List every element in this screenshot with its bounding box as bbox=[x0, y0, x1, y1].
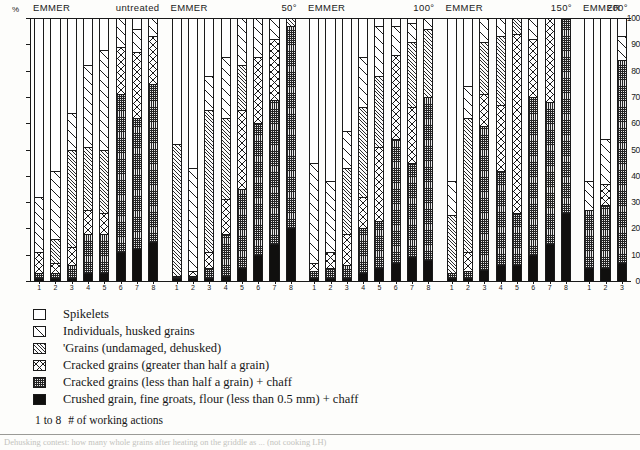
stacked-bar[interactable] bbox=[116, 18, 126, 281]
stacked-bar[interactable] bbox=[253, 18, 263, 281]
stacked-bar[interactable] bbox=[391, 18, 401, 281]
bar-segment-spikelets bbox=[51, 18, 59, 171]
x-tick-label: 1 bbox=[169, 284, 185, 291]
stacked-bar[interactable] bbox=[512, 18, 522, 281]
bar-segment-spikelets bbox=[343, 18, 351, 131]
bar-segment-crushed bbox=[100, 273, 108, 281]
legend-item[interactable]: Spikelets bbox=[33, 306, 593, 323]
stacked-bar[interactable] bbox=[188, 18, 198, 281]
bar-segment-spikelets bbox=[310, 18, 318, 163]
bar-group: EMMER150° bbox=[444, 18, 575, 281]
stacked-bar[interactable] bbox=[99, 18, 109, 281]
stacked-bar[interactable] bbox=[584, 18, 594, 281]
stacked-bar[interactable] bbox=[374, 18, 384, 281]
group-header: EMMER200° bbox=[581, 2, 630, 16]
group-name-label: EMMER bbox=[33, 2, 70, 13]
stacked-bar[interactable] bbox=[132, 18, 142, 281]
x-tick-mark bbox=[622, 281, 623, 284]
stacked-bar[interactable] bbox=[83, 18, 93, 281]
bar-segment-grains bbox=[497, 36, 505, 104]
stacked-bar[interactable] bbox=[407, 18, 417, 281]
legend-item[interactable]: 'Grains (undamaged, dehusked) bbox=[33, 340, 593, 357]
bar-segment-individual bbox=[310, 163, 318, 263]
stacked-bar[interactable] bbox=[600, 18, 610, 281]
bar-segment-grains bbox=[84, 147, 92, 210]
bar-segment-cracked-big bbox=[310, 263, 318, 271]
stacked-bar[interactable] bbox=[617, 18, 627, 281]
bar-segment-individual bbox=[408, 23, 416, 41]
stacked-bar[interactable] bbox=[309, 18, 319, 281]
stacked-bar[interactable] bbox=[463, 18, 473, 281]
stacked-bar[interactable] bbox=[325, 18, 335, 281]
x-tick-label: 3 bbox=[476, 284, 492, 291]
x-tick-label: 8 bbox=[558, 284, 574, 291]
stacked-bar[interactable] bbox=[50, 18, 60, 281]
stacked-bar[interactable] bbox=[479, 18, 489, 281]
x-tick-label: 3 bbox=[64, 284, 80, 291]
stacked-bar[interactable] bbox=[67, 18, 77, 281]
stacked-bar[interactable] bbox=[204, 18, 214, 281]
stacked-bar[interactable] bbox=[561, 18, 571, 281]
stacked-bar[interactable] bbox=[423, 18, 433, 281]
working-actions-text: # of working actions bbox=[68, 414, 163, 426]
bar-segment-individual bbox=[117, 18, 125, 47]
bar-segment-cracked-small bbox=[546, 102, 554, 244]
stacked-bar[interactable] bbox=[447, 18, 457, 281]
bar-segment-cracked-small bbox=[424, 97, 432, 260]
bar-segment-crushed bbox=[149, 242, 157, 281]
bar-segment-spikelets bbox=[326, 18, 334, 181]
x-tick-mark bbox=[88, 281, 89, 284]
bar-segment-cracked-big bbox=[464, 252, 472, 270]
x-tick-mark bbox=[242, 281, 243, 284]
stacked-bar[interactable] bbox=[237, 18, 247, 281]
bar-segment-grains bbox=[464, 118, 472, 252]
bar-segment-cracked-small bbox=[585, 210, 593, 268]
bar-segment-cracked-small bbox=[601, 205, 609, 268]
stacked-bar[interactable] bbox=[172, 18, 182, 281]
x-tick-label: 6 bbox=[388, 284, 404, 291]
x-tick-label: 3 bbox=[201, 284, 217, 291]
x-tick-label: 8 bbox=[283, 284, 299, 291]
bar-segment-cracked-big bbox=[326, 252, 334, 268]
legend-item[interactable]: Crushed grain, fine groats, flour (less … bbox=[33, 391, 593, 408]
legend-label: Individuals, husked grains bbox=[63, 324, 195, 339]
footer-divider bbox=[0, 434, 640, 435]
stacked-bar[interactable] bbox=[545, 18, 555, 281]
stacked-bar[interactable] bbox=[528, 18, 538, 281]
x-tick-label: 2 bbox=[185, 284, 201, 291]
bar-segment-cracked-small bbox=[343, 265, 351, 278]
bar-segment-individual bbox=[84, 65, 92, 147]
bar-segment-individual bbox=[149, 18, 157, 36]
stacked-bar[interactable] bbox=[286, 18, 296, 281]
bar-segment-individual bbox=[51, 171, 59, 239]
bar-segment-cracked-big bbox=[35, 252, 43, 273]
x-tick-mark bbox=[137, 281, 138, 284]
stacked-bar[interactable] bbox=[342, 18, 352, 281]
group-treatment-label: 100° bbox=[413, 2, 434, 13]
stacked-bar[interactable] bbox=[34, 18, 44, 281]
bar-segment-cracked-small bbox=[448, 273, 456, 278]
stacked-bar[interactable] bbox=[148, 18, 158, 281]
stacked-bar[interactable] bbox=[358, 18, 368, 281]
x-tick-mark bbox=[484, 281, 485, 284]
x-tick-mark bbox=[314, 281, 315, 284]
legend-item[interactable]: Cracked grains (less than half a grain) … bbox=[33, 374, 593, 391]
stacked-bar[interactable] bbox=[221, 18, 231, 281]
x-tick-mark bbox=[55, 281, 56, 284]
bar-segment-cracked-small bbox=[270, 100, 278, 245]
stacked-bar[interactable] bbox=[496, 18, 506, 281]
bar-segment-grains bbox=[375, 76, 383, 147]
stacked-bar[interactable] bbox=[269, 18, 279, 281]
legend-item[interactable]: Cracked grains (greater than half a grai… bbox=[33, 357, 593, 374]
bar-segment-spikelets bbox=[222, 18, 230, 57]
x-tick-label: 8 bbox=[145, 284, 161, 291]
legend-item[interactable]: Individuals, husked grains bbox=[33, 323, 593, 340]
bar-group: EMMER100° bbox=[306, 18, 437, 281]
bar-segment-cracked-big bbox=[546, 18, 554, 102]
bar-segment-cracked-small bbox=[326, 268, 334, 279]
legend: SpikeletsIndividuals, husked grains'Grai… bbox=[33, 306, 593, 408]
bar-segment-cracked-small bbox=[84, 234, 92, 273]
bar-segment-cracked-big bbox=[100, 213, 108, 234]
bar-segment-cracked-small bbox=[359, 228, 367, 273]
bar-segment-crushed bbox=[513, 265, 521, 281]
